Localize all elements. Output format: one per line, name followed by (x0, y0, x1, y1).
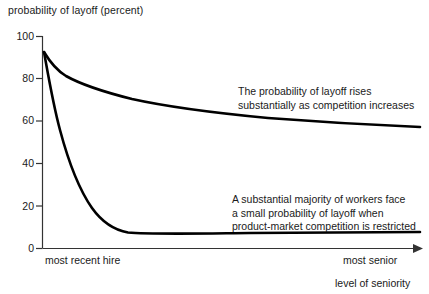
plot-area (0, 0, 429, 294)
lower-annotation-line-2: a small probability of layoff when (232, 207, 416, 221)
upper-annotation: The probability of layoff rises substant… (238, 85, 414, 112)
lower-annotation: A substantial majority of workers face a… (232, 193, 416, 234)
x-tick-label-most-senior: most senior (343, 254, 397, 266)
x-tick-label-most-recent-hire: most recent hire (45, 254, 120, 266)
lower-annotation-line-1: A substantial majority of workers face (232, 193, 416, 207)
upper-annotation-line-1: The probability of layoff rises (238, 85, 414, 99)
x-axis-arrowhead (413, 244, 423, 253)
chart-figure: probability of layoff (percent) 100 80 6… (0, 0, 429, 294)
lower-annotation-line-3: product-market competition is restricted (232, 220, 416, 234)
upper-annotation-line-2: substantially as competition increases (238, 99, 414, 113)
x-axis-title: level of seniority (335, 277, 410, 289)
